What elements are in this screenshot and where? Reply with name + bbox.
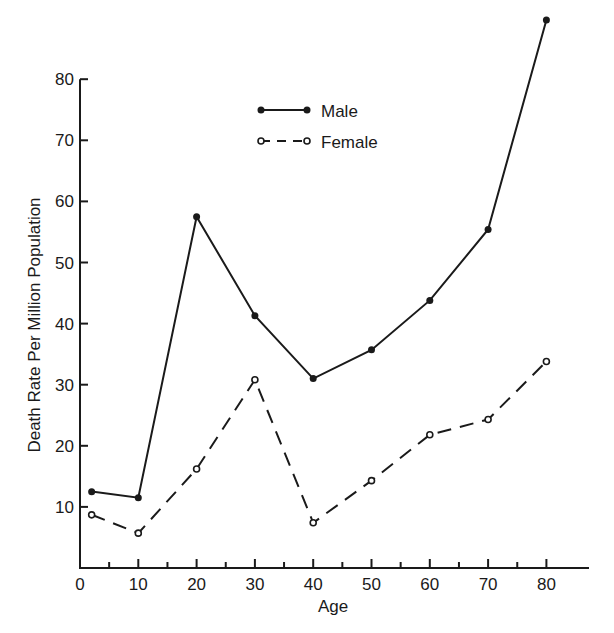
data-point (310, 520, 316, 526)
data-point (427, 432, 433, 438)
y-tick-label: 60 (55, 192, 74, 211)
series-male-line (92, 20, 547, 498)
x-axis-label: Age (318, 597, 348, 616)
x-tick-label: 0 (75, 575, 84, 594)
legend-female-marker-icon (304, 138, 310, 144)
legend-male-label: Male (321, 102, 358, 121)
y-axis-label: Death Rate Per Million Population (25, 197, 44, 452)
legend-male-marker-icon (304, 107, 311, 114)
legend-male-marker-icon (258, 107, 265, 114)
data-point (194, 466, 200, 472)
y-tick-label: 30 (55, 376, 74, 395)
legend-female-label: Female (321, 133, 378, 152)
data-point (88, 488, 95, 495)
axes (79, 79, 589, 568)
series-female-line (92, 362, 547, 534)
y-tick-label: 70 (55, 131, 74, 150)
data-point (89, 512, 95, 518)
data-series (88, 16, 550, 536)
data-point (135, 530, 141, 536)
data-point (193, 213, 200, 220)
data-point (369, 478, 375, 484)
data-point (310, 375, 317, 382)
y-tick-label: 20 (55, 437, 74, 456)
x-tick-label: 80 (537, 575, 556, 594)
x-tick-label: 50 (362, 575, 381, 594)
data-point (251, 312, 258, 319)
y-tick-label: 40 (55, 315, 74, 334)
y-tick-label: 10 (55, 498, 74, 517)
line-chart: 102030405060708001020304050607080 Male F… (0, 0, 614, 633)
data-point (543, 358, 549, 364)
x-tick-label: 10 (129, 575, 148, 594)
data-point (485, 226, 492, 233)
y-tick-label: 50 (55, 254, 74, 273)
legend-female-marker-icon (258, 138, 264, 144)
data-point (543, 16, 550, 23)
data-point (426, 297, 433, 304)
x-tick-label: 70 (479, 575, 498, 594)
data-point (252, 377, 258, 383)
y-tick-label: 80 (55, 70, 74, 89)
tick-marks: 102030405060708001020304050607080 (55, 70, 556, 594)
data-point (485, 417, 491, 423)
data-point (368, 346, 375, 353)
x-tick-label: 60 (420, 575, 439, 594)
x-tick-label: 40 (304, 575, 323, 594)
legend: Male Female (258, 102, 378, 152)
x-tick-label: 20 (187, 575, 206, 594)
data-point (135, 494, 142, 501)
x-tick-label: 30 (245, 575, 264, 594)
